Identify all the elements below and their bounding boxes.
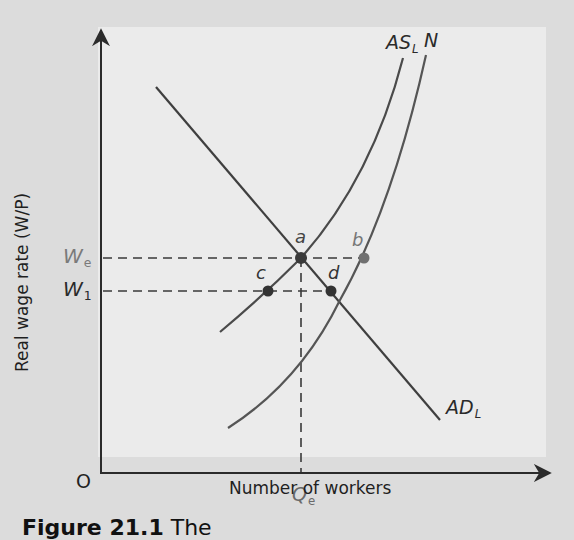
x-axis-title: Number of workers xyxy=(229,480,391,497)
origin-label: O xyxy=(76,472,91,491)
n-label: N xyxy=(424,31,438,50)
point-d xyxy=(326,286,337,297)
point-c-label: c xyxy=(256,264,266,282)
point-b xyxy=(359,253,370,264)
n-curve xyxy=(228,55,426,428)
point-a xyxy=(295,252,307,264)
y-axis-title: Real wage rate (W/P) xyxy=(12,193,32,372)
w1-tick-label: W1 xyxy=(63,279,92,299)
point-a-label: a xyxy=(295,228,306,246)
figure-caption: Figure 21.1 The xyxy=(22,517,212,539)
point-d-label: d xyxy=(328,264,339,282)
we-tick-label: We xyxy=(63,246,91,266)
point-b-label: b xyxy=(352,231,363,249)
as-l-label: ASL xyxy=(386,33,419,52)
point-c xyxy=(263,286,274,297)
ad-l-label: ADL xyxy=(446,398,481,417)
